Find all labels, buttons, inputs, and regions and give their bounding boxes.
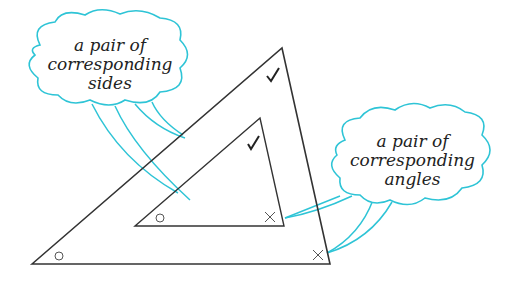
inner-apex-check-icon	[248, 136, 259, 149]
similar-triangles-diagram: a pair of corresponding sides a pair of …	[0, 0, 511, 286]
sides-line-3: sides	[40, 74, 180, 93]
sides-line-1: a pair of	[40, 36, 180, 55]
angles-line-2: corresponding	[340, 151, 485, 170]
inner-right-cross-mark	[265, 212, 275, 222]
inner-left-angle-mark	[156, 214, 164, 222]
sides-callout-text: a pair of corresponding sides	[40, 36, 180, 93]
angles-callout-tails	[285, 196, 392, 253]
sides-callout-tails	[92, 102, 190, 200]
outer-right-cross-mark	[313, 250, 323, 260]
inner-triangle	[135, 118, 284, 226]
outer-apex-check-icon	[267, 68, 279, 81]
angles-line-3: angles	[340, 170, 485, 189]
sides-line-2: corresponding	[40, 55, 180, 74]
outer-left-angle-mark	[55, 252, 63, 260]
angles-callout-text: a pair of corresponding angles	[340, 132, 485, 189]
angles-line-1: a pair of	[340, 132, 485, 151]
